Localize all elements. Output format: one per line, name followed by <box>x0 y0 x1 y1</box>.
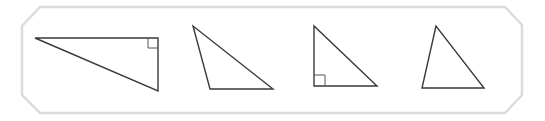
triangle-2-obtuse <box>193 26 273 89</box>
triangle-4-acute <box>422 26 484 88</box>
right-angle-marker-icon <box>314 75 325 86</box>
triangle-shape <box>314 26 377 86</box>
right-angle-marker-icon <box>148 38 158 48</box>
triangle-shape <box>35 38 158 91</box>
triangle-shape <box>193 26 273 89</box>
diagram-canvas <box>0 0 545 121</box>
triangle-1-right-wide <box>35 38 158 91</box>
triangle-diagram <box>0 0 545 121</box>
triangle-shape <box>422 26 484 88</box>
triangle-3-right-upright <box>314 26 377 86</box>
octagonal-frame <box>22 7 522 113</box>
